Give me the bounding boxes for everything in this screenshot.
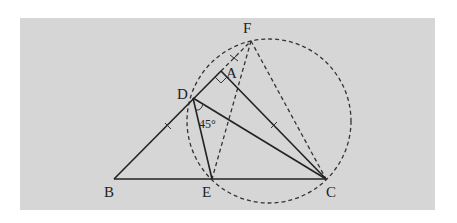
segment-FC (251, 41, 326, 179)
label-A: A (226, 65, 237, 81)
angle-label: 45° (199, 117, 216, 131)
geometry-figure: F A D B E C 45° (0, 0, 457, 223)
segment-DE (193, 98, 212, 179)
label-F: F (243, 20, 251, 36)
angle-arc-D (196, 104, 203, 110)
label-B: B (104, 184, 114, 200)
segment-FE (212, 41, 251, 179)
label-E: E (202, 184, 211, 200)
label-D: D (177, 86, 188, 102)
label-C: C (326, 184, 336, 200)
